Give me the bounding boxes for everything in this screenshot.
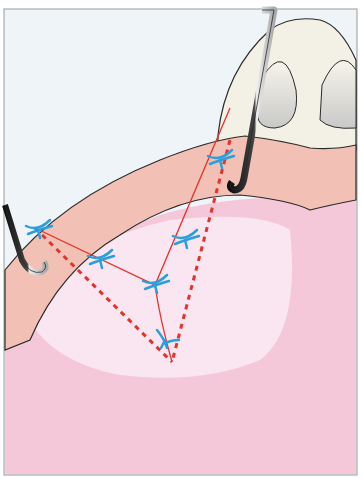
surgical-illustration (0, 0, 363, 478)
illustration-canvas (0, 0, 363, 478)
